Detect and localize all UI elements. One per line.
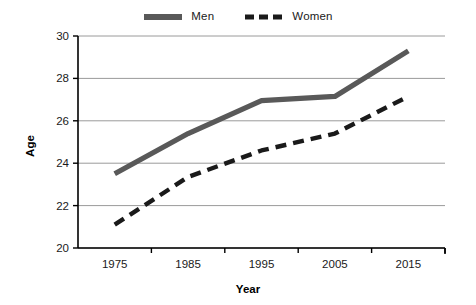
y-tick-label: 28 xyxy=(56,72,69,84)
y-tick-label: 22 xyxy=(56,200,69,212)
x-axis-title: Year xyxy=(236,283,261,295)
y-axis-title: Age xyxy=(24,135,36,157)
x-tick-label: 1975 xyxy=(102,258,128,270)
series-line-men xyxy=(115,51,409,174)
line-chart: Men Women 202224262830 19751985199520052… xyxy=(0,0,476,305)
x-tick-label: 2015 xyxy=(396,258,422,270)
y-tick-label: 30 xyxy=(56,30,69,42)
gridlines xyxy=(78,36,445,248)
y-tick-label: 26 xyxy=(56,115,69,127)
y-tick-label: 24 xyxy=(56,157,69,169)
x-tick-label: 1985 xyxy=(175,258,201,270)
data-series-group xyxy=(115,51,409,225)
plot-area: 202224262830 19751985199520052015 Age Ye… xyxy=(0,0,476,305)
y-tick-label: 20 xyxy=(56,242,69,254)
x-tick-label: 1995 xyxy=(249,258,275,270)
x-axis-ticks: 19751985199520052015 xyxy=(102,248,445,270)
x-tick-label: 2005 xyxy=(322,258,348,270)
y-axis-ticks: 202224262830 xyxy=(56,30,78,254)
